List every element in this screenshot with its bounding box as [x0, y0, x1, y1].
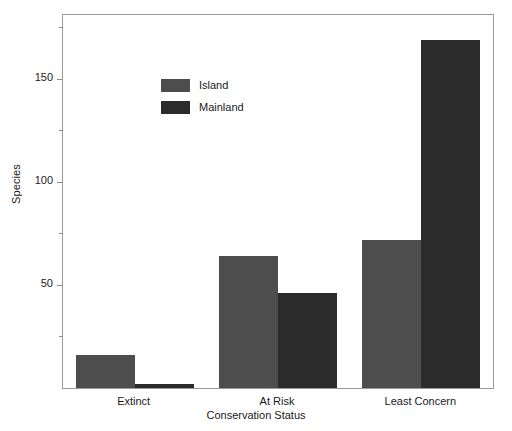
bar — [135, 384, 194, 388]
legend-swatch-island — [161, 79, 190, 92]
legend-item: Island — [161, 75, 244, 95]
y-tick-label: 150 — [35, 71, 53, 83]
y-tick-label: 100 — [35, 174, 53, 186]
x-tick-label: At Risk — [217, 395, 337, 407]
bar — [219, 256, 278, 388]
bar — [362, 240, 421, 388]
legend-swatch-mainland — [161, 101, 190, 114]
x-tick-label: Least Concern — [360, 395, 480, 407]
tick-mark — [59, 336, 63, 337]
bar — [76, 355, 135, 388]
y-axis-label: Species — [10, 124, 22, 244]
bar-chart-figure: Species 50100150 Island Mainland Extinct… — [0, 0, 512, 431]
tick-mark — [57, 182, 63, 183]
plot-area: 50100150 Island Mainland — [62, 14, 494, 389]
tick-mark — [57, 285, 63, 286]
tick-mark — [59, 27, 63, 28]
tick-mark — [59, 233, 63, 234]
bar — [278, 293, 337, 388]
legend-label-island: Island — [199, 79, 228, 91]
x-axis-label: Conservation Status — [0, 409, 512, 421]
legend-item: Mainland — [161, 97, 244, 117]
x-tick-label: Extinct — [74, 395, 194, 407]
legend: Island Mainland — [161, 75, 244, 119]
bar — [421, 40, 480, 388]
tick-mark — [57, 79, 63, 80]
y-tick-label: 50 — [41, 277, 53, 289]
legend-label-mainland: Mainland — [199, 101, 244, 113]
tick-mark — [59, 130, 63, 131]
